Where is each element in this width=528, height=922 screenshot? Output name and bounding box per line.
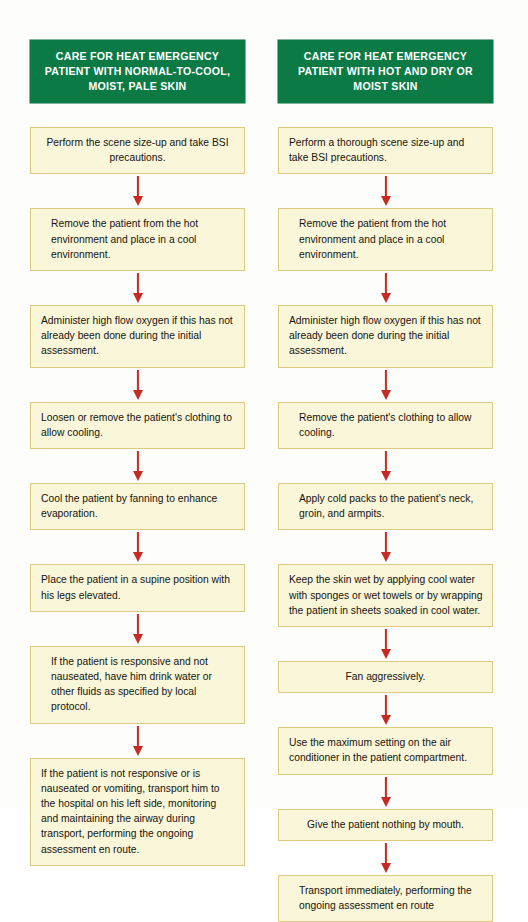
arrow-stem — [136, 370, 138, 392]
arrow-stem — [384, 695, 386, 717]
flow-arrow — [30, 271, 245, 305]
flow-arrow — [30, 368, 245, 402]
flow-arrow — [278, 530, 493, 564]
flow-step-box: Remove the patient's clothing to allow c… — [278, 402, 493, 449]
arrow-head-icon — [133, 390, 143, 400]
arrow-stem — [384, 176, 386, 198]
arrow-head-icon — [133, 746, 143, 756]
arrow-stem — [136, 726, 138, 748]
flow-step-box: Place the patient in a supine position w… — [30, 564, 245, 611]
flow-arrow — [30, 174, 245, 208]
flow-arrow — [30, 724, 245, 758]
column-header-normal-to-cool-skin: CARE FOR HEAT EMERGENCY PATIENT WITH NOR… — [30, 40, 245, 103]
flow-step-box: Give the patient nothing by mouth. — [278, 809, 493, 841]
flow-arrow — [278, 449, 493, 483]
flow-step-box: Administer high flow oxygen if this has … — [30, 305, 245, 368]
flow-step-box: Fan aggressively. — [278, 661, 493, 693]
flow-arrow — [278, 775, 493, 809]
arrow-head-icon — [381, 797, 391, 807]
arrow-stem — [136, 176, 138, 198]
flow-step-box: Keep the skin wet by applying cool water… — [278, 564, 493, 627]
flow-step-box: If the patient is responsive and not nau… — [30, 646, 245, 724]
flow-step-box: Use the maximum setting on the air condi… — [278, 727, 493, 774]
flowchart-column-right: CARE FOR HEAT EMERGENCY PATIENT WITH HOT… — [264, 40, 528, 922]
flow-step-box: Transport immediately, performing the on… — [278, 875, 493, 922]
arrow-stem — [136, 273, 138, 295]
arrow-head-icon — [381, 863, 391, 873]
flow-step-box: Loosen or remove the patient's clothing … — [30, 402, 245, 449]
arrow-head-icon — [381, 715, 391, 725]
flow-step-box: Remove the patient from the hot environm… — [278, 208, 493, 271]
flow-arrow — [278, 627, 493, 661]
flow-arrow — [278, 368, 493, 402]
flow-arrow — [278, 174, 493, 208]
flowchart-columns: CARE FOR HEAT EMERGENCY PATIENT WITH NOR… — [0, 0, 528, 922]
flow-arrow — [30, 449, 245, 483]
column-header-hot-dry-skin: CARE FOR HEAT EMERGENCY PATIENT WITH HOT… — [278, 40, 493, 103]
arrow-stem — [384, 777, 386, 799]
flow-steps-left: Perform the scene size-up and take BSI p… — [30, 127, 245, 866]
arrow-stem — [384, 532, 386, 554]
arrow-stem — [384, 370, 386, 392]
flow-steps-right: Perform a thorough scene size-up and tak… — [278, 127, 493, 922]
flow-arrow — [278, 271, 493, 305]
arrow-stem — [384, 273, 386, 295]
arrow-stem — [136, 614, 138, 636]
arrow-stem — [136, 532, 138, 554]
flow-step-box: Remove the patient from the hot environm… — [30, 208, 245, 271]
arrow-stem — [384, 843, 386, 865]
flow-step-box: Administer high flow oxygen if this has … — [278, 305, 493, 368]
arrow-head-icon — [381, 196, 391, 206]
arrow-stem — [384, 451, 386, 473]
arrow-head-icon — [133, 293, 143, 303]
arrow-head-icon — [133, 471, 143, 481]
arrow-head-icon — [381, 471, 391, 481]
arrow-head-icon — [381, 649, 391, 659]
flow-arrow — [30, 612, 245, 646]
flow-step-box: Cool the patient by fanning to enhance e… — [30, 483, 245, 530]
flow-step-box: If the patient is not responsive or is n… — [30, 758, 245, 866]
flow-arrow — [30, 530, 245, 564]
flow-arrow — [278, 841, 493, 875]
flow-arrow — [278, 693, 493, 727]
flow-step-box: Perform the scene size-up and take BSI p… — [30, 127, 245, 174]
arrow-head-icon — [133, 634, 143, 644]
arrow-head-icon — [381, 552, 391, 562]
arrow-stem — [384, 629, 386, 651]
flow-step-box: Perform a thorough scene size-up and tak… — [278, 127, 493, 174]
arrow-head-icon — [133, 552, 143, 562]
arrow-head-icon — [133, 196, 143, 206]
arrow-head-icon — [381, 293, 391, 303]
arrow-stem — [136, 451, 138, 473]
arrow-head-icon — [381, 390, 391, 400]
flow-step-box: Apply cold packs to the patient's neck, … — [278, 483, 493, 530]
flowchart-column-left: CARE FOR HEAT EMERGENCY PATIENT WITH NOR… — [0, 40, 264, 922]
